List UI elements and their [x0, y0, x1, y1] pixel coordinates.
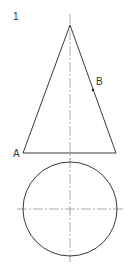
- point-b-label: B: [96, 76, 103, 87]
- point-a-label: A: [13, 148, 20, 159]
- point-b-marker: [92, 89, 95, 92]
- cone-drawing: 1 B A: [0, 0, 131, 277]
- cone-elevation: [23, 25, 116, 153]
- figure-number: 1: [13, 11, 19, 22]
